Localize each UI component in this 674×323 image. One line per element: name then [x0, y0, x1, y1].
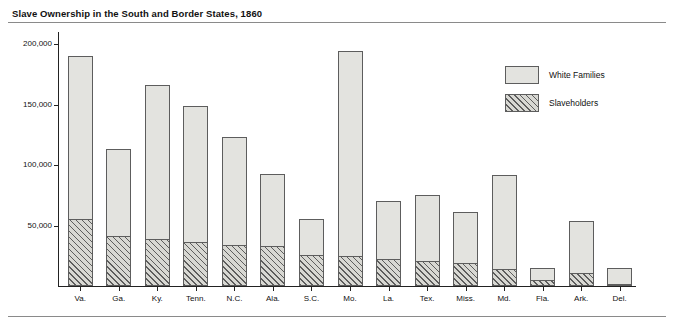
x-tick-mark: [350, 287, 351, 291]
bar-slaveholders: [68, 219, 93, 286]
y-axis-labels: 50,000100,000150,000200,000: [0, 32, 52, 287]
x-tick-mark: [273, 287, 274, 291]
x-tick-label: Tex.: [407, 294, 447, 303]
bar-slaveholders: [453, 263, 478, 286]
legend-item-slaveholders: Slaveholders: [505, 94, 655, 116]
y-tick-label: 150,000: [23, 100, 52, 109]
bar-group: [338, 51, 363, 286]
x-tick-mark: [119, 287, 120, 291]
legend-label-white-families: White Families: [549, 70, 605, 80]
x-tick-label: Va.: [60, 294, 100, 303]
x-tick-label: Ky.: [137, 294, 177, 303]
x-axis-line: [58, 286, 636, 287]
legend-label-slaveholders: Slaveholders: [549, 98, 598, 108]
x-tick-mark: [427, 287, 428, 291]
divider-top: [8, 22, 666, 23]
legend-item-white-families: White Families: [505, 66, 655, 88]
y-tick-mark: [54, 105, 58, 106]
x-tick-label: Del.: [600, 294, 640, 303]
y-axis-line: [58, 32, 59, 287]
y-tick-mark: [54, 44, 58, 45]
x-tick-label: Tenn.: [176, 294, 216, 303]
y-tick-label: 50,000: [28, 221, 52, 230]
bar-slaveholders: [183, 242, 208, 286]
x-tick-mark: [157, 287, 158, 291]
bar-slaveholders: [260, 246, 285, 286]
legend-swatch-slaveholders: [505, 94, 539, 112]
x-tick-label: N.C.: [214, 294, 254, 303]
bar-slaveholders: [569, 273, 594, 286]
x-tick-label: Md.: [484, 294, 524, 303]
bar-group: [145, 85, 170, 286]
x-tick-label: Ark.: [561, 294, 601, 303]
bar-slaveholders: [222, 245, 247, 286]
x-tick-mark: [581, 287, 582, 291]
x-tick-mark: [620, 287, 621, 291]
bar-group: [106, 149, 131, 286]
x-tick-label: Mo.: [330, 294, 370, 303]
bar-group: [183, 106, 208, 286]
x-tick-mark: [543, 287, 544, 291]
x-tick-label: Ala.: [253, 294, 293, 303]
bar-slaveholders: [299, 255, 324, 286]
bar-slaveholders: [415, 261, 440, 286]
y-tick-label: 200,000: [23, 39, 52, 48]
x-tick-mark: [311, 287, 312, 291]
bar-group: [415, 195, 440, 286]
x-tick-mark: [466, 287, 467, 291]
bar-group: [453, 212, 478, 286]
bar-group: [299, 219, 324, 286]
y-tick-mark: [54, 226, 58, 227]
x-tick-label: Miss.: [446, 294, 486, 303]
bar-slaveholders: [492, 269, 517, 286]
legend-swatch-white-families: [505, 66, 539, 84]
x-tick-label: Fla.: [523, 294, 563, 303]
bar-group: [68, 56, 93, 286]
bar-slaveholders: [145, 239, 170, 286]
x-tick-mark: [196, 287, 197, 291]
bar-group: [222, 137, 247, 286]
x-tick-label: La.: [369, 294, 409, 303]
y-tick-mark: [54, 165, 58, 166]
chart-legend: White Families Slaveholders: [505, 66, 655, 122]
bar-group: [530, 268, 555, 286]
x-tick-label: Ga.: [99, 294, 139, 303]
divider-bottom: [8, 316, 666, 317]
y-tick-label: 100,000: [23, 160, 52, 169]
bar-slaveholders: [607, 284, 632, 286]
bar-slaveholders: [530, 280, 555, 286]
x-tick-label: S.C.: [291, 294, 331, 303]
bar-slaveholders: [338, 256, 363, 286]
bar-group: [492, 175, 517, 286]
x-tick-mark: [234, 287, 235, 291]
x-tick-mark: [389, 287, 390, 291]
bar-group: [569, 221, 594, 286]
x-tick-mark: [504, 287, 505, 291]
bar-group: [376, 201, 401, 286]
bar-white-families: [338, 51, 363, 286]
page-title: Slave Ownership in the South and Border …: [12, 8, 262, 19]
bar-group: [260, 174, 285, 286]
x-tick-mark: [80, 287, 81, 291]
bar-slaveholders: [106, 236, 131, 286]
bar-group: [607, 268, 632, 286]
chart-page: Slave Ownership in the South and Border …: [0, 0, 674, 323]
bar-slaveholders: [376, 259, 401, 286]
